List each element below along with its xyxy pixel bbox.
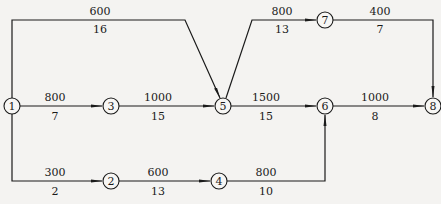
edge-1-3-duration: 7: [52, 110, 59, 123]
node-6-label: 6: [322, 100, 329, 113]
edge-7-8-cost: 400: [370, 5, 391, 18]
node-4-label: 4: [216, 175, 223, 188]
edge-1-5-cost: 600: [90, 5, 111, 18]
edge-5-6: 1500 15: [231, 91, 316, 123]
edge-7-8: 400 7: [333, 5, 433, 97]
edge-6-8-cost: 1000: [361, 91, 389, 104]
node-7-label: 7: [322, 14, 329, 27]
edge-1-3: 800 7: [20, 91, 102, 123]
node-8: 8: [425, 98, 441, 114]
edge-5-6-duration: 15: [259, 110, 273, 123]
edge-3-5-cost: 1000: [144, 91, 172, 104]
node-5: 5: [215, 98, 231, 114]
edge-1-2-duration: 2: [52, 185, 59, 198]
network-diagram: 600 16 800 7 300 2 1000 15 600 13 800 13…: [0, 0, 441, 204]
edge-3-5-duration: 15: [151, 110, 165, 123]
edge-4-6: 800 10: [227, 115, 325, 198]
edge-2-4-duration: 13: [151, 185, 165, 198]
edge-1-5: 600 16: [12, 5, 220, 98]
node-3: 3: [103, 98, 119, 114]
edge-5-7-cost: 800: [272, 5, 293, 18]
edge-5-6-cost: 1500: [252, 91, 280, 104]
edge-1-5-duration: 16: [93, 23, 107, 36]
node-2: 2: [103, 173, 119, 189]
edge-1-2: 300 2: [12, 114, 102, 198]
edge-4-6-duration: 10: [259, 185, 273, 198]
edge-2-4-cost: 600: [148, 166, 169, 179]
edge-6-8-duration: 8: [372, 110, 379, 123]
edge-3-5: 1000 15: [119, 91, 214, 123]
node-1-label: 1: [9, 100, 16, 113]
node-6: 6: [317, 98, 333, 114]
edge-5-7-duration: 13: [275, 23, 289, 36]
edge-4-6-cost: 800: [256, 166, 277, 179]
edge-5-7: 800 13: [226, 5, 316, 98]
node-2-label: 2: [108, 175, 115, 188]
edge-2-4: 600 13: [119, 166, 210, 198]
node-3-label: 3: [108, 100, 115, 113]
edge-1-2-cost: 300: [45, 166, 66, 179]
node-8-label: 8: [430, 100, 437, 113]
edge-1-3-cost: 800: [45, 91, 66, 104]
node-1: 1: [4, 98, 20, 114]
node-7: 7: [317, 12, 333, 28]
edge-6-8: 1000 8: [333, 91, 424, 123]
node-4: 4: [211, 173, 227, 189]
node-5-label: 5: [220, 100, 227, 113]
edge-7-8-duration: 7: [377, 23, 384, 36]
